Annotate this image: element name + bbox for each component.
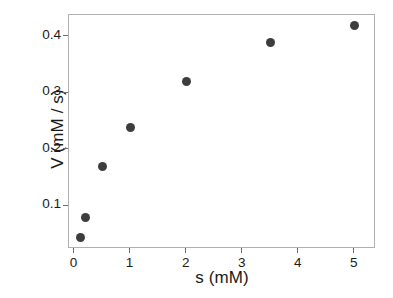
y-tick-label: 0.4 — [42, 27, 61, 42]
plot-panel — [68, 14, 375, 248]
data-point — [81, 213, 90, 222]
y-axis-label: V (mM / s) — [48, 9, 68, 249]
x-tick-mark — [353, 248, 354, 253]
data-point — [350, 21, 359, 30]
y-tick-label: 0.1 — [42, 196, 61, 211]
scatter-plot-figure: V (mM / s) s (mM) 0.10.20.30.4 012345 — [0, 0, 393, 298]
x-tick-mark — [241, 248, 242, 253]
x-tick-label: 2 — [171, 255, 201, 270]
x-tick-label: 3 — [227, 255, 257, 270]
data-point — [76, 233, 85, 242]
y-tick-label: 0.3 — [42, 83, 61, 98]
data-point — [266, 38, 275, 47]
x-tick-mark — [129, 248, 130, 253]
y-tick-label: 0.2 — [42, 140, 61, 155]
x-tick-mark — [73, 248, 74, 253]
x-tick-label: 5 — [339, 255, 369, 270]
x-tick-mark — [185, 248, 186, 253]
data-point — [126, 123, 135, 132]
x-tick-label: 1 — [115, 255, 145, 270]
data-point — [98, 162, 107, 171]
x-tick-mark — [297, 248, 298, 253]
x-axis-label: s (mM) — [68, 268, 376, 288]
data-point — [182, 77, 191, 86]
x-tick-label: 4 — [283, 255, 313, 270]
x-tick-label: 0 — [59, 255, 89, 270]
